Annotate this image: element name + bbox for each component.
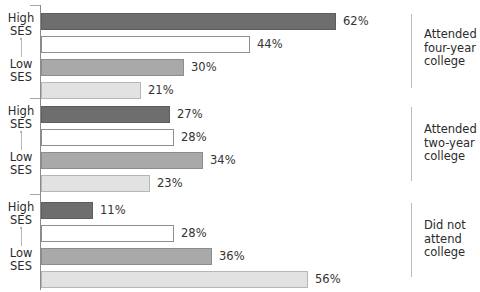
bar-row: 56% (41, 271, 368, 288)
bar-dark[interactable] (41, 202, 93, 219)
bar-value-label: 28% (181, 226, 207, 241)
bar-row: 30% (41, 59, 244, 76)
bar-white[interactable] (41, 225, 174, 242)
bar-value-label: 34% (210, 153, 236, 168)
bar-value-label: 36% (219, 249, 245, 264)
ses-high-label: High SES (4, 201, 38, 226)
axis-tick (30, 5, 40, 6)
bar-row: 23% (41, 175, 210, 192)
bar-value-label: 30% (191, 60, 217, 75)
bar-value-label: 44% (257, 37, 283, 52)
axis-tick (30, 194, 40, 195)
category-label: Attended four-year college (424, 28, 480, 69)
bar-mid[interactable] (41, 59, 184, 76)
bar-dark[interactable] (41, 106, 170, 123)
bar-value-label: 28% (181, 130, 207, 145)
bar-white[interactable] (41, 129, 174, 146)
bar-value-label: 21% (148, 83, 174, 98)
bar-row: 34% (41, 152, 263, 169)
bar-mid[interactable] (41, 248, 212, 265)
ses-arrow-icon (21, 229, 22, 246)
bar-group: High SESLow SES62%44%30%21% (0, 8, 475, 96)
ses-low-label: Low SES (4, 151, 38, 176)
bar-row: 21% (41, 82, 201, 99)
bar-group: High SESLow SES27%28%34%23% (0, 101, 475, 189)
bar-row: 28% (41, 129, 234, 146)
bar-value-label: 56% (315, 272, 341, 287)
bar-value-label: 11% (100, 203, 126, 218)
bar-row: 11% (41, 202, 153, 219)
category-separator (411, 107, 412, 181)
ses-high-label: High SES (4, 105, 38, 130)
bar-value-label: 27% (177, 107, 203, 122)
bar-light[interactable] (41, 82, 141, 99)
bar-row: 62% (41, 13, 396, 30)
bar-value-label: 62% (343, 14, 369, 29)
ses-arrow-icon (21, 40, 22, 57)
bar-row: 44% (41, 36, 310, 53)
bar-light[interactable] (41, 175, 150, 192)
bar-row: 28% (41, 225, 234, 242)
bar-row: 36% (41, 248, 272, 265)
bar-dark[interactable] (41, 13, 336, 30)
category-separator (411, 14, 412, 88)
bar-mid[interactable] (41, 152, 203, 169)
ses-low-label: Low SES (4, 247, 38, 272)
bar-white[interactable] (41, 36, 250, 53)
category-separator (411, 203, 412, 277)
ses-high-label: High SES (4, 12, 38, 37)
bar-value-label: 23% (157, 176, 183, 191)
category-label: Attended two-year college (424, 123, 480, 164)
axis-tick (30, 98, 40, 99)
ses-arrow-icon (21, 133, 22, 150)
bar-light[interactable] (41, 271, 308, 288)
category-label: Did not attend college (424, 219, 480, 260)
bar-row: 27% (41, 106, 230, 123)
bar-group: High SESLow SES11%28%36%56% (0, 197, 475, 285)
ses-low-label: Low SES (4, 58, 38, 83)
